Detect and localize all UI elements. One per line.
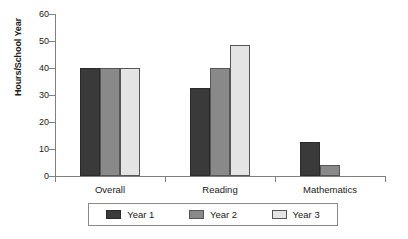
legend-label: Year 3 xyxy=(293,209,320,220)
legend-item: Year 2 xyxy=(189,209,237,220)
y-axis-tick xyxy=(49,14,55,15)
bar xyxy=(190,88,210,176)
bar-group xyxy=(190,14,250,176)
y-axis-tick-label: 10 xyxy=(23,145,49,154)
y-axis-tick xyxy=(49,41,55,42)
bar-group xyxy=(80,14,140,176)
plot-area: 0102030405060 xyxy=(55,14,385,177)
bar-group xyxy=(300,14,360,176)
bar xyxy=(230,45,250,176)
legend-swatch-icon xyxy=(106,210,121,219)
x-axis-tick xyxy=(385,176,386,182)
x-axis-category-label: Reading xyxy=(165,184,275,195)
x-axis-tick xyxy=(275,176,276,182)
chart-legend: Year 1Year 2Year 3 xyxy=(88,203,338,226)
bar xyxy=(320,165,340,176)
y-axis-tick-label: 60 xyxy=(23,10,49,19)
y-axis-tick xyxy=(49,149,55,150)
legend-swatch-icon xyxy=(189,210,204,219)
bar xyxy=(80,68,100,176)
legend-item: Year 3 xyxy=(272,209,320,220)
bar xyxy=(300,142,320,176)
x-axis-tick xyxy=(55,176,56,182)
y-axis-line xyxy=(55,14,56,177)
y-axis-tick xyxy=(49,68,55,69)
bar xyxy=(100,68,120,176)
legend-item: Year 1 xyxy=(106,209,154,220)
y-axis-title: Hours/School Year xyxy=(13,0,23,122)
y-axis-tick-label: 0 xyxy=(23,172,49,181)
bar-chart: Hours/School Year 0102030405060 OverallR… xyxy=(0,0,408,239)
bar xyxy=(210,68,230,176)
x-axis-line xyxy=(55,176,385,177)
legend-label: Year 2 xyxy=(210,209,237,220)
bar xyxy=(120,68,140,176)
y-axis-tick xyxy=(49,122,55,123)
y-axis-tick-label: 20 xyxy=(23,118,49,127)
y-axis-tick xyxy=(49,95,55,96)
x-axis-tick xyxy=(165,176,166,182)
y-axis-tick-label: 30 xyxy=(23,91,49,100)
x-axis-category-label: Overall xyxy=(55,184,165,195)
legend-label: Year 1 xyxy=(127,209,154,220)
x-axis-category-label: Mathematics xyxy=(275,184,385,195)
legend-swatch-icon xyxy=(272,210,287,219)
y-axis-tick-label: 40 xyxy=(23,64,49,73)
y-axis-tick-label: 50 xyxy=(23,37,49,46)
